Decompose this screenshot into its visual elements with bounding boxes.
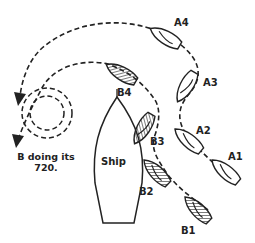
label-a1: A1	[228, 152, 243, 162]
boat-b4	[103, 59, 139, 87]
caption: B doing its 720.	[16, 152, 76, 174]
label-a4: A4	[174, 18, 189, 28]
boat-b2	[139, 155, 172, 188]
turn-circle-inner	[30, 96, 64, 130]
caption-line-2: 720.	[16, 163, 76, 174]
label-b1: B1	[181, 226, 196, 236]
label-b2: B2	[139, 187, 154, 197]
boat-a3	[172, 69, 200, 105]
diagram-canvas	[0, 0, 255, 243]
label-b3: B3	[150, 137, 165, 147]
arrowhead-b	[12, 134, 24, 148]
label-a2: A2	[196, 126, 211, 136]
arrowhead-a	[14, 92, 26, 106]
label-b4: B4	[117, 88, 132, 98]
ship-label: Ship	[101, 157, 126, 167]
label-a3: A3	[203, 78, 218, 88]
boat-b1	[180, 192, 213, 225]
